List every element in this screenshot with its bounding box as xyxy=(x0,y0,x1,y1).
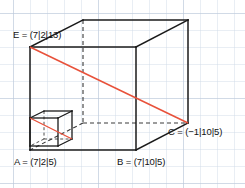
diagram-canvas: E = (7|2|13) A = (7|2|5) B = (7|10|5) C … xyxy=(0,0,245,188)
label-point-C: C = (−1|10|5) xyxy=(168,127,222,137)
label-point-E: E = (7|2|13) xyxy=(13,30,61,40)
label-point-A: A = (7|2|5) xyxy=(14,157,57,167)
label-point-B: B = (7|10|5) xyxy=(117,157,165,167)
